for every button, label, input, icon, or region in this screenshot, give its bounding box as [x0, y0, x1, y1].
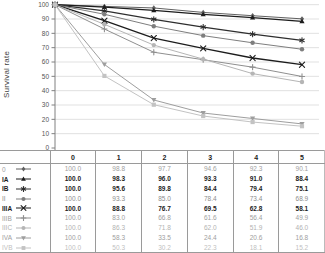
- survival-value-cell: 30.2: [142, 242, 188, 252]
- survival-value-cell: 18.1: [233, 242, 279, 252]
- legend-marker-icon: [16, 175, 31, 183]
- legend-column-header: [0, 151, 50, 164]
- survival-value-cell: 71.8: [142, 223, 188, 233]
- survival-value-cell: 15.2: [279, 242, 325, 252]
- y-tick-label: 90: [42, 15, 50, 22]
- y-tick-label: 80: [42, 30, 50, 37]
- table-row-II: II100.093.385.078.473.468.9: [0, 193, 325, 203]
- survival-value-cell: 98.3: [96, 174, 142, 184]
- legend-marker-icon: [16, 224, 31, 232]
- stage-label: IIIA: [2, 204, 16, 213]
- series-IVB: [53, 3, 304, 129]
- survival-value-cell: 62.0: [187, 223, 233, 233]
- survival-value-cell: 96.0: [142, 174, 188, 184]
- y-tick-label: 40: [42, 87, 50, 94]
- stage-label: IVB: [2, 243, 16, 252]
- row-label-IIIC: IIIC: [0, 223, 50, 233]
- table-header-row: 012345: [0, 151, 325, 164]
- survival-value-cell: 76.7: [142, 203, 188, 213]
- survival-value-cell: 20.6: [233, 232, 279, 242]
- y-tick-label: 30: [42, 101, 50, 108]
- table-row-IVB: IVB100.050.330.222.318.115.2: [0, 242, 325, 252]
- survival-value-cell: 51.9: [233, 223, 279, 233]
- row-label-IA: IA: [0, 174, 50, 184]
- series-IVA: [52, 3, 304, 127]
- survival-value-cell: 73.4: [233, 193, 279, 203]
- survival-value-cell: 91.0: [233, 174, 279, 184]
- survival-rate-chart-panel: Survival rate 0102030405060708090100 012…: [0, 0, 325, 253]
- survival-value-cell: 58.1: [279, 203, 325, 213]
- survival-value-cell: 22.3: [187, 242, 233, 252]
- legend-marker-icon: [16, 185, 31, 193]
- survival-value-cell: 100.0: [50, 242, 96, 252]
- survival-value-cell: 78.4: [187, 193, 233, 203]
- survival-value-cell: 62.8: [233, 203, 279, 213]
- y-tick-label: 70: [42, 44, 50, 51]
- stage-label: II: [2, 194, 16, 203]
- y-tick-label: 10: [42, 130, 50, 137]
- legend-marker-icon: [16, 204, 31, 212]
- stage-label: IA: [2, 175, 16, 184]
- col-header-3: 3: [187, 151, 233, 164]
- y-tick-label: 50: [42, 73, 50, 80]
- survival-data-table: 0123450100.098.897.794.692.390.1IA100.09…: [0, 150, 325, 253]
- table-row-IA: IA100.098.396.093.391.088.4: [0, 174, 325, 184]
- y-tick-label: 60: [42, 58, 50, 65]
- col-header-1: 1: [96, 151, 142, 164]
- table-row-0: 0100.098.897.794.692.390.1: [0, 164, 325, 174]
- row-label-IIIA: IIIA: [0, 203, 50, 213]
- legend-marker-icon: [16, 214, 31, 222]
- survival-value-cell: 33.5: [142, 232, 188, 242]
- survival-value-cell: 93.3: [96, 193, 142, 203]
- stage-label: IB: [2, 184, 16, 193]
- survival-value-cell: 94.6: [187, 164, 233, 174]
- stage-label: 0: [2, 165, 16, 174]
- survival-value-cell: 61.6: [187, 213, 233, 223]
- legend-marker-icon: [16, 244, 31, 252]
- legend-marker-icon: [16, 165, 31, 173]
- survival-value-cell: 100.0: [50, 193, 96, 203]
- survival-line-chart: 0102030405060708090100: [0, 0, 325, 150]
- row-label-IVB: IVB: [0, 242, 50, 252]
- table-row-IIIB: IIIB100.083.066.861.656.449.9: [0, 213, 325, 223]
- survival-value-cell: 100.0: [50, 232, 96, 242]
- col-header-2: 2: [142, 151, 188, 164]
- survival-value-cell: 66.8: [142, 213, 188, 223]
- series-IIIB: [52, 2, 304, 79]
- row-label-II: II: [0, 193, 50, 203]
- survival-value-cell: 100.0: [50, 223, 96, 233]
- survival-value-cell: 49.9: [279, 213, 325, 223]
- survival-value-cell: 85.0: [142, 193, 188, 203]
- survival-value-cell: 84.4: [187, 184, 233, 194]
- survival-value-cell: 24.4: [187, 232, 233, 242]
- col-header-4: 4: [233, 151, 279, 164]
- survival-value-cell: 100.0: [50, 203, 96, 213]
- stage-label: IIIB: [2, 214, 16, 223]
- stage-label: IIIC: [2, 223, 16, 232]
- survival-value-cell: 68.9: [279, 193, 325, 203]
- legend-marker-icon: [16, 195, 31, 203]
- survival-value-cell: 100.0: [50, 184, 96, 194]
- y-tick-label: 100: [38, 1, 49, 8]
- survival-value-cell: 50.3: [96, 242, 142, 252]
- survival-value-cell: 16.8: [279, 232, 325, 242]
- survival-value-cell: 79.4: [233, 184, 279, 194]
- survival-value-cell: 97.7: [142, 164, 188, 174]
- survival-value-cell: 95.6: [96, 184, 142, 194]
- survival-value-cell: 89.8: [142, 184, 188, 194]
- survival-value-cell: 93.3: [187, 174, 233, 184]
- survival-value-cell: 58.3: [96, 232, 142, 242]
- table-row-IIIA: IIIA100.088.876.769.562.858.1: [0, 203, 325, 213]
- row-label-IIIB: IIIB: [0, 213, 50, 223]
- survival-value-cell: 86.3: [96, 223, 142, 233]
- survival-value-cell: 98.8: [96, 164, 142, 174]
- survival-value-cell: 46.0: [279, 223, 325, 233]
- survival-value-cell: 69.5: [187, 203, 233, 213]
- survival-value-cell: 83.0: [96, 213, 142, 223]
- survival-value-cell: 90.1: [279, 164, 325, 174]
- table-row-IVA: IVA100.058.333.524.420.616.8: [0, 232, 325, 242]
- survival-value-cell: 100.0: [50, 174, 96, 184]
- legend-marker-icon: [16, 234, 31, 242]
- stage-label: IVA: [2, 233, 16, 242]
- survival-value-cell: 75.1: [279, 184, 325, 194]
